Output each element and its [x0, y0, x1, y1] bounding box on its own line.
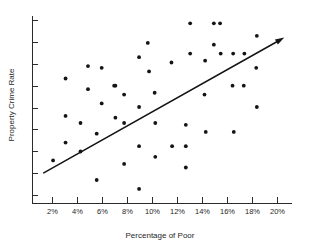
- data-point: [64, 114, 68, 118]
- data-point: [122, 162, 126, 166]
- data-point: [137, 144, 141, 148]
- data-point: [254, 66, 258, 70]
- data-point: [100, 102, 104, 106]
- y-axis-title: Property Crime Rate: [7, 68, 16, 141]
- data-point: [64, 141, 68, 145]
- data-point: [122, 93, 126, 97]
- data-point: [114, 116, 118, 120]
- data-point: [153, 121, 157, 125]
- data-point: [64, 77, 68, 81]
- chart-canvas: 2%4%6%8%10%12%14%16%18%20% Percentage of…: [0, 0, 310, 248]
- x-tick-label: 20%: [270, 207, 285, 216]
- x-axis-title: Percentage of Poor: [126, 231, 195, 240]
- x-tick-label: 2%: [47, 207, 58, 216]
- data-point: [212, 21, 216, 25]
- axes-group: [32, 16, 292, 203]
- x-axis-ticks: [53, 197, 278, 203]
- data-point: [212, 43, 216, 47]
- data-point: [218, 21, 222, 25]
- trend-arrowhead-icon: [275, 38, 284, 45]
- y-axis-ticks: [32, 21, 38, 196]
- data-point: [231, 52, 235, 56]
- data-point: [232, 130, 236, 134]
- data-point: [184, 144, 188, 148]
- x-tick-label: 14%: [195, 207, 210, 216]
- data-point: [100, 66, 104, 70]
- data-point: [204, 130, 208, 134]
- data-point: [203, 93, 207, 97]
- data-point: [122, 121, 126, 125]
- data-point: [188, 52, 192, 56]
- data-point: [170, 144, 174, 148]
- data-point: [137, 105, 141, 109]
- data-point: [95, 178, 99, 182]
- trend-line-group: [44, 38, 285, 173]
- trend-line: [44, 40, 280, 173]
- data-point: [137, 55, 141, 59]
- data-point: [184, 166, 188, 170]
- data-point: [242, 84, 246, 88]
- x-tick-label: 8%: [122, 207, 133, 216]
- data-point: [203, 59, 207, 63]
- data-point: [170, 61, 174, 65]
- x-tick-label: 18%: [245, 207, 260, 216]
- data-points-group: [51, 21, 259, 190]
- data-point: [147, 70, 151, 74]
- data-point: [146, 41, 150, 45]
- x-tick-label: 4%: [72, 207, 83, 216]
- x-axis-tick-labels: 2%4%6%8%10%12%14%16%18%20%: [47, 207, 285, 216]
- data-point: [86, 87, 90, 91]
- data-point: [153, 91, 157, 95]
- x-tick-label: 6%: [97, 207, 108, 216]
- scatter-chart: 2%4%6%8%10%12%14%16%18%20% Percentage of…: [0, 0, 310, 248]
- data-point: [79, 121, 83, 125]
- x-tick-label: 10%: [145, 207, 160, 216]
- data-point: [137, 187, 141, 191]
- data-point: [153, 155, 157, 159]
- x-tick-label: 16%: [220, 207, 235, 216]
- data-point: [95, 132, 99, 136]
- data-point: [242, 52, 246, 56]
- data-point: [112, 84, 116, 88]
- data-point: [231, 84, 235, 88]
- data-point: [86, 64, 90, 68]
- data-point: [184, 123, 188, 127]
- x-tick-label: 12%: [170, 207, 185, 216]
- data-point: [219, 52, 223, 56]
- data-point: [255, 34, 259, 38]
- data-point: [255, 105, 259, 109]
- data-point: [188, 21, 192, 25]
- data-point: [51, 159, 55, 163]
